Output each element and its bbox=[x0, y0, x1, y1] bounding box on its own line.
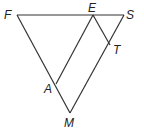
segment-ET bbox=[93, 15, 110, 45]
label-F: F bbox=[4, 8, 12, 22]
label-T: T bbox=[113, 43, 122, 57]
label-A: A bbox=[43, 82, 52, 96]
label-M: M bbox=[64, 116, 74, 129]
label-S: S bbox=[126, 8, 134, 22]
segment-SM bbox=[70, 15, 124, 113]
geometry-diagram: F E S T A M bbox=[0, 0, 144, 129]
segment-EA bbox=[56, 15, 93, 84]
label-E: E bbox=[88, 1, 97, 15]
segment-FM bbox=[17, 15, 70, 113]
